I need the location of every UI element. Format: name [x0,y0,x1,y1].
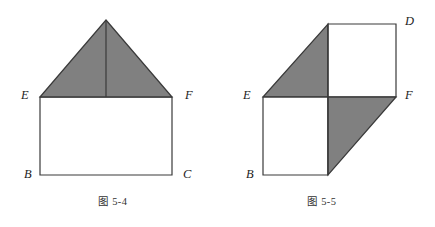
caption-prefix-5-4: 图 [98,195,108,207]
label-f-right: F [405,89,413,102]
rectangle-ebcf [40,97,172,175]
caption-figure-5-4: 图 5-4 [98,196,127,208]
caption-figure-5-5: 图 5-5 [307,196,336,208]
shaded-upper-left-triangle [263,24,328,97]
label-e-left: E [21,89,29,102]
white-lower-left-square [263,97,328,175]
label-c-left: C [183,168,191,181]
caption-number-5-4: 5-4 [112,196,127,207]
label-b-right: B [246,168,254,181]
label-b-left: B [24,168,32,181]
geometry-figures-svg [0,0,435,227]
diagram-canvas: E F B C D E F B 图 5-4 图 5-5 [0,0,435,227]
caption-number-5-5: 5-5 [321,196,336,207]
shaded-lower-right-triangle [328,97,396,175]
label-d-right: D [405,15,414,28]
white-upper-right-square [328,24,396,97]
figure-5-4-group [40,20,172,175]
caption-prefix-5-5: 图 [307,195,317,207]
label-e-right: E [243,89,251,102]
label-f-left: F [185,89,193,102]
figure-5-5-group [263,24,396,175]
